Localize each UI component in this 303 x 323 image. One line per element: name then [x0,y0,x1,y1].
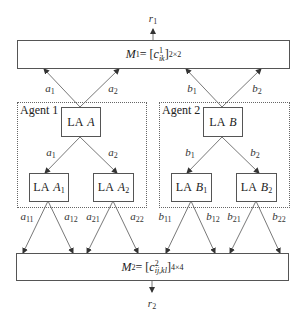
matrix-m1-box: M1 = [c1ik]2×2 [17,40,290,69]
label-b11: b11 [158,211,171,224]
la-a-node: LAA [61,107,101,137]
label-b21: b21 [227,211,241,224]
agent-1-title: Agent 1 [20,103,58,118]
label-b22: b22 [272,211,286,224]
label-a1-up: a1 [45,83,55,96]
la-a2-node: LAA2 [93,173,134,202]
matrix-m2-box: M2 = [c2ij,kl]4×4 [16,253,289,281]
la-a1-node: LAA1 [29,173,69,202]
label-b2-up: b2 [252,83,262,96]
label-b1-down: b1 [185,147,195,160]
label-b12: b12 [206,211,220,224]
arrow-b11 [166,201,191,253]
arrow-b21 [230,201,256,253]
label-b1-up: b1 [187,83,197,96]
la-b1-node: LAB1 [171,173,212,202]
label-b2-down: b2 [250,147,260,160]
label-a12: a12 [64,211,78,224]
label-a11: a11 [20,211,33,224]
arrow-a11 [23,201,48,253]
label-a1-down: a1 [46,147,56,160]
label-a22: a22 [130,211,144,224]
output-r1-label: r1 [149,13,157,26]
output-r2-label: r2 [148,298,156,311]
agent-2-title: Agent 2 [162,103,200,118]
label-a2-down: a2 [108,147,118,160]
label-a2-up: a2 [108,83,118,96]
la-b2-node: LAB2 [236,173,277,202]
la-b-node: LAB [203,107,243,137]
label-a21: a21 [86,211,100,224]
